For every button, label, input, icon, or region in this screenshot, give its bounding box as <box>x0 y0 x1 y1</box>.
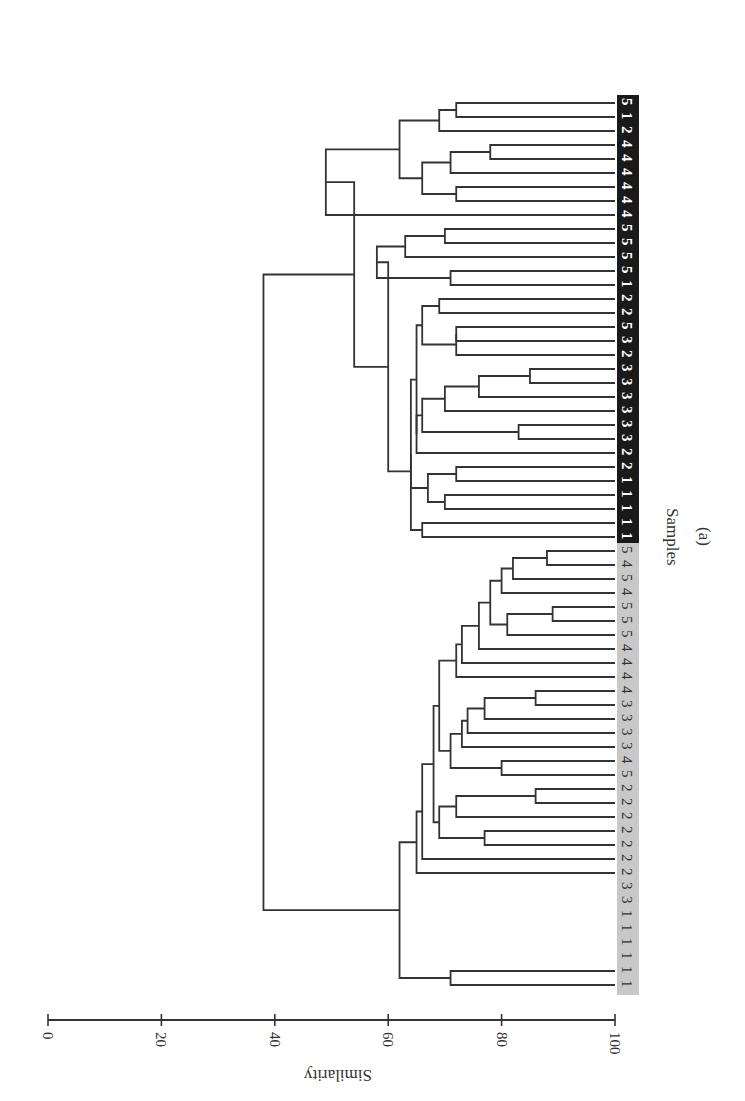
sample-label: 1 <box>619 280 635 288</box>
sample-label: 2 <box>619 868 635 876</box>
dendrogram-branch <box>445 495 615 509</box>
sample-label: 2 <box>619 784 635 792</box>
sample-label: 1 <box>619 532 635 540</box>
sample-label: 3 <box>619 378 635 386</box>
sample-label: 4 <box>619 658 635 666</box>
dendrogram-chart: 0204060801005124444445555122532333333221… <box>0 0 745 1101</box>
sample-label: 2 <box>619 308 635 316</box>
dendrogram-branch <box>485 831 615 845</box>
dendrogram-branch <box>411 455 428 488</box>
sample-label: 2 <box>619 462 635 470</box>
dendrogram-branch <box>553 607 615 621</box>
dendrogram-branch <box>490 145 615 159</box>
sample-label: 1 <box>619 112 635 120</box>
sample-label: 4 <box>619 196 635 204</box>
sample-label: 2 <box>619 854 635 862</box>
dendrogram-branch <box>536 691 615 705</box>
sample-label: 1 <box>619 476 635 484</box>
similarity-axis-label: Similarity <box>304 1065 372 1085</box>
dendrogram-branch <box>479 603 615 649</box>
sample-label: 3 <box>619 728 635 736</box>
dendrogram-branch <box>428 474 456 502</box>
sample-label: 4 <box>619 182 635 190</box>
dendrogram-branch <box>462 626 615 663</box>
sample-label: 3 <box>619 434 635 442</box>
sample-label: 3 <box>619 406 635 414</box>
dendrogram-branch <box>536 789 615 803</box>
sample-label: 4 <box>619 672 635 680</box>
sample-label: 2 <box>619 812 635 820</box>
sample-label: 1 <box>619 504 635 512</box>
sample-label: 4 <box>619 140 635 148</box>
sample-label: 2 <box>619 798 635 806</box>
sample-label: 1 <box>619 952 635 960</box>
dendrogram-branch <box>439 661 456 751</box>
sample-label: 4 <box>619 168 635 176</box>
sample-label: 5 <box>619 266 635 274</box>
sample-label: 3 <box>619 896 635 904</box>
dendrogram-branch <box>445 229 615 243</box>
dendrogram-branch <box>519 425 615 439</box>
sample-label: 1 <box>619 938 635 946</box>
sample-label: 2 <box>619 448 635 456</box>
axis-tick-label: 0 <box>40 1032 56 1040</box>
dendrogram-branch <box>400 121 440 179</box>
samples-axis-label: Samples <box>662 508 682 566</box>
axis-tick-label: 80 <box>494 1032 510 1047</box>
dendrogram-branch <box>507 614 615 635</box>
sample-label: 3 <box>619 742 635 750</box>
dendrogram-branch <box>439 807 484 839</box>
dendrogram-branch <box>547 551 615 565</box>
sample-label: 5 <box>619 770 635 778</box>
sample-label: 3 <box>619 420 635 428</box>
dendrogram-branch <box>456 103 615 117</box>
dendrogram-branch <box>451 271 615 285</box>
dendrogram-branch <box>405 236 615 257</box>
dendrogram-branch <box>417 812 615 873</box>
dendrogram-branch <box>451 734 502 768</box>
sample-label: 5 <box>619 630 635 638</box>
sample-label: 5 <box>619 546 635 554</box>
sample-label: 3 <box>619 714 635 722</box>
sample-label: 4 <box>619 756 635 764</box>
sample-label: 5 <box>619 602 635 610</box>
dendrogram-branch <box>530 369 615 383</box>
dendrogram-branch <box>445 387 615 412</box>
sample-label: 5 <box>619 224 635 232</box>
axis-tick-label: 20 <box>153 1032 169 1047</box>
dendrogram-branch <box>451 971 615 985</box>
sample-label: 1 <box>619 910 635 918</box>
sample-label: 5 <box>619 574 635 582</box>
dendrogram-branch <box>490 581 507 625</box>
sample-label: 2 <box>619 840 635 848</box>
dendrogram-branch <box>451 152 615 173</box>
dendrogram-branch <box>468 709 615 734</box>
sample-label: 4 <box>619 644 635 652</box>
sample-label: 4 <box>619 560 635 568</box>
dendrogram-branch <box>417 415 615 453</box>
dendrogram-branch <box>439 299 615 313</box>
dendrogram-branch <box>456 334 615 355</box>
dendrogram-branch <box>422 399 518 432</box>
dendrogram-branch <box>456 187 615 201</box>
sample-label: 5 <box>619 616 635 624</box>
sample-label: 5 <box>619 252 635 260</box>
dendrogram-branch <box>400 842 451 978</box>
dendrogram-branch <box>479 376 615 397</box>
sample-label: 1 <box>619 518 635 526</box>
sample-label: 5 <box>619 98 635 106</box>
sample-label: 3 <box>619 336 635 344</box>
dendrogram-branch <box>439 110 615 131</box>
axis-tick-label: 60 <box>380 1032 396 1047</box>
sample-label: 1 <box>619 490 635 498</box>
sample-label: 4 <box>619 154 635 162</box>
figure-caption: (a) <box>694 527 714 546</box>
sample-label: 3 <box>619 364 635 372</box>
dendrogram-branch <box>422 523 615 537</box>
sample-label: 4 <box>619 686 635 694</box>
sample-label: 4 <box>619 210 635 218</box>
dendrogram-branch <box>502 761 615 775</box>
sample-label: 5 <box>619 322 635 330</box>
axis-tick-label: 100 <box>607 1032 623 1055</box>
dendrogram-branch <box>456 327 615 341</box>
